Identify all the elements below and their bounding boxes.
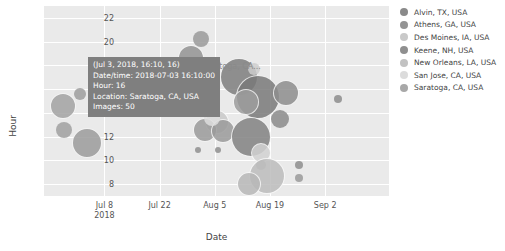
x-axis-tick-label: Sep 2 [314,201,337,211]
legend-item-label: Alvin, TX, USA [414,8,467,17]
data-point-bubble[interactable] [193,31,209,47]
x-axis-tick-main: Jul 22 [148,201,170,211]
tooltip-hour: Hour: 16 [93,81,215,92]
legend-swatch-circle-icon [400,84,408,92]
legend-item[interactable]: New Orleans, LA, USA [400,56,505,69]
legend-item-label: Keene, NH, USA [414,46,473,55]
x-axis-tick-label: Aug 5 [203,201,226,211]
data-point-bubble[interactable] [271,110,289,128]
x-axis-tick-label: Jul 22 [148,201,170,211]
x-axis-label: Date [44,232,389,242]
legend-item[interactable]: Saratoga, CA, USA [400,82,505,95]
data-point-bubble[interactable] [215,147,221,153]
data-point-bubble[interactable] [295,174,303,182]
x-axis-tick-label: Jul 82018 [94,201,114,221]
x-axis-tick-main: Aug 19 [256,201,284,211]
y-axis-tick-label: 22 [90,13,114,22]
tooltip-images: Images: 50 [93,102,215,113]
legend-item-label: Des Moines, IA, USA [414,33,490,42]
tooltip-datetime: Date/time: 2018-07-03 16:10:00 [93,71,215,82]
y-axis-tick-label: 12 [90,132,114,141]
legend-item[interactable]: Keene, NH, USA [400,44,505,57]
data-point-bubble[interactable] [295,161,303,169]
legend-item[interactable]: Alvin, TX, USA [400,6,505,19]
data-point-bubble[interactable] [233,89,259,115]
data-point-bubble[interactable] [74,88,86,100]
legend-swatch-circle-icon [400,21,408,29]
x-axis-tick-main: Jul 8 [94,201,114,211]
legend-swatch-circle-icon [400,46,408,54]
data-point-bubble[interactable] [273,80,299,106]
tooltip-location: Location: Saratoga, CA, USA [93,92,215,103]
tooltip-header: (Jul 3, 2018, 16:10, 16) [93,60,215,71]
data-point-bubble[interactable] [195,147,201,153]
chart-root: Saratoga, CA... 222018161412108 Hour Jul… [0,0,505,251]
legend: Alvin, TX, USAAthens, GA, USADes Moines,… [400,6,505,94]
legend-swatch-circle-icon [400,71,408,79]
x-axis-tick-year: 2018 [94,211,114,221]
y-axis-label: Hour [8,115,18,137]
y-axis-tick-label: 20 [90,37,114,46]
x-axis-tick-main: Aug 5 [203,201,226,211]
y-axis-tick-label: 8 [90,180,114,189]
legend-item[interactable]: Athens, GA, USA [400,19,505,32]
gridline-vertical [325,6,326,196]
legend-item-label: San Jose, CA, USA [414,71,481,80]
data-point-bubble[interactable] [237,172,261,196]
legend-item-label: Athens, GA, USA [414,20,476,29]
legend-item[interactable]: Des Moines, IA, USA [400,31,505,44]
legend-swatch-circle-icon [400,33,408,41]
legend-item-label: New Orleans, LA, USA [414,58,496,67]
x-axis-tick-main: Sep 2 [314,201,337,211]
data-point-bubble[interactable] [56,122,72,138]
legend-item-label: Saratoga, CA, USA [414,83,483,92]
legend-swatch-circle-icon [400,8,408,16]
legend-swatch-circle-icon [400,59,408,67]
data-point-bubble[interactable] [334,95,342,103]
legend-item[interactable]: San Jose, CA, USA [400,69,505,82]
x-axis-tick-label: Aug 19 [256,201,284,211]
data-point-tooltip: (Jul 3, 2018, 16:10, 16) Date/time: 2018… [88,57,220,117]
data-point-bubble[interactable] [50,93,76,119]
y-axis-tick-label: 10 [90,156,114,165]
